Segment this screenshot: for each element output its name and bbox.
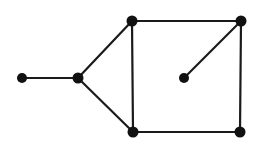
graph-figure — [0, 0, 258, 146]
edge-top-left-to-bottom-left — [132, 21, 133, 132]
edge-interior-to-top-right — [184, 21, 241, 78]
edge-fork-to-top-left — [78, 21, 132, 78]
edge-top-right-to-bottom-right — [240, 21, 241, 132]
graph-canvas — [0, 0, 258, 146]
interior-vertex — [179, 73, 189, 83]
square-top-left-vertex — [127, 16, 138, 27]
square-bottom-right-vertex — [235, 127, 246, 138]
edge-fork-to-bottom-left — [78, 78, 133, 132]
square-top-right-vertex — [236, 16, 247, 27]
square-bottom-left-vertex — [128, 127, 139, 138]
pendant-left-vertex — [17, 73, 27, 83]
fork-vertex — [73, 73, 84, 84]
edge-layer — [22, 21, 241, 132]
